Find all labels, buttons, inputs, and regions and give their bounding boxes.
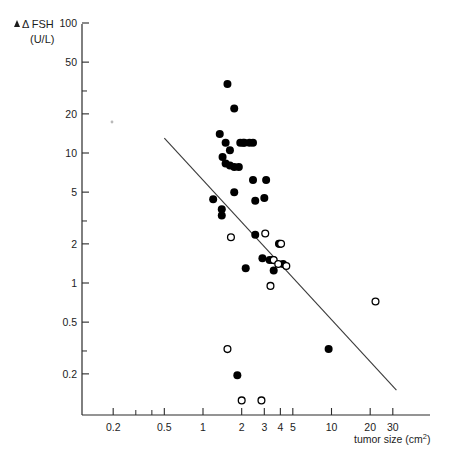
data-point-filled-circles-19 (218, 212, 226, 220)
data-point-filled-circles-7 (249, 139, 257, 147)
scatter-plot-figure: 1005020105210.50.20.20.512345102030Δ FSH… (0, 0, 454, 469)
y-tick-label-0_2: 0.2 (62, 368, 77, 380)
data-point-filled-circles-20 (251, 197, 259, 205)
data-point-filled-circles-17 (209, 195, 217, 203)
x-tick-label-4: 4 (277, 421, 283, 433)
data-point-filled-circles-13 (226, 146, 234, 154)
y-tick-label-2: 2 (71, 238, 77, 250)
y-tick-label-10: 10 (65, 147, 77, 159)
x-tick-label-3: 3 (261, 421, 267, 433)
data-point-open-circles-6 (267, 282, 274, 289)
y-axis-title-line1: Δ FSH (22, 18, 54, 30)
y-tick-label-5: 5 (71, 186, 77, 198)
data-point-filled-circles-14 (249, 176, 257, 184)
data-point-open-circles-8 (224, 346, 231, 353)
y-axis-title-line2: (U/L) (30, 33, 54, 45)
x-tick-label-0_2: 0.2 (106, 421, 121, 433)
data-point-filled-circles-33 (239, 139, 247, 147)
data-point-filled-circles-0 (223, 80, 231, 88)
data-point-open-circles-7 (372, 298, 379, 305)
data-point-filled-circles-32 (233, 371, 241, 379)
data-point-open-circles-5 (283, 263, 290, 270)
x-tick-label-20: 20 (364, 421, 376, 433)
plot-canvas: 1005020105210.50.20.20.512345102030Δ FSH… (0, 0, 454, 469)
y-tick-label-0_5: 0.5 (62, 316, 77, 328)
data-point-filled-circles-12 (235, 163, 243, 171)
data-point-filled-circles-23 (258, 254, 266, 262)
x-tick-label-5: 5 (290, 421, 296, 433)
data-point-open-circles-10 (258, 397, 265, 404)
data-point-filled-circles-15 (262, 176, 270, 184)
data-point-filled-circles-30 (242, 264, 250, 272)
data-point-open-circles-2 (278, 240, 285, 247)
y-tick-label-100: 100 (59, 17, 77, 29)
delta-glyph-icon (14, 20, 20, 27)
data-point-filled-circles-22 (251, 231, 259, 239)
x-axis-title: tumor size (cm2) (354, 432, 431, 446)
data-point-open-circles-1 (262, 230, 269, 237)
data-point-open-circles-9 (238, 397, 245, 404)
y-tick-label-50: 50 (65, 56, 77, 68)
y-tick-label-20: 20 (65, 108, 77, 120)
data-point-filled-circles-31 (325, 345, 333, 353)
data-point-open-circles-0 (228, 234, 235, 241)
data-point-filled-circles-21 (260, 194, 268, 202)
data-point-filled-circles-3 (222, 139, 230, 147)
y-tick-label-1: 1 (71, 277, 77, 289)
data-point-filled-circles-2 (216, 130, 224, 138)
data-point-open-circles-4 (275, 261, 282, 268)
x-tick-label-2: 2 (239, 421, 245, 433)
x-tick-label-0_5: 0.5 (157, 421, 172, 433)
x-tick-label-10: 10 (326, 421, 338, 433)
data-point-filled-circles-16 (230, 188, 238, 196)
data-point-filled-circles-1 (230, 104, 238, 112)
scan-speck (111, 121, 114, 124)
x-tick-label-30: 30 (387, 421, 399, 433)
x-tick-label-1: 1 (200, 421, 206, 433)
